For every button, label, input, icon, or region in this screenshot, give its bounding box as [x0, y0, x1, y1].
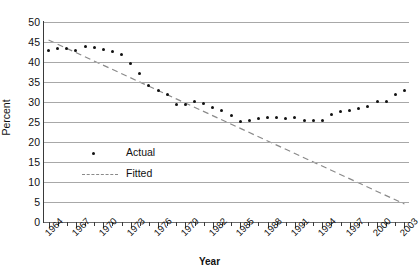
data-point — [394, 93, 397, 96]
data-point — [348, 109, 351, 112]
data-point — [321, 119, 324, 122]
data-point — [84, 45, 87, 48]
data-point — [230, 114, 233, 117]
x-axis-tick — [94, 222, 95, 226]
gridline — [44, 62, 409, 63]
x-axis-tick — [258, 222, 259, 226]
x-axis-tick — [395, 222, 396, 226]
y-axis-tick-label: 45 — [16, 37, 40, 47]
gridline — [44, 22, 409, 23]
y-axis-tick-labels: 50454035302520151050 — [12, 0, 40, 270]
x-axis-tick — [286, 222, 287, 226]
legend-label-fitted: Fitted — [126, 168, 152, 179]
gridline — [44, 202, 409, 203]
data-point — [312, 119, 315, 122]
data-point — [266, 116, 269, 119]
data-point — [248, 119, 251, 122]
gridline — [44, 82, 409, 83]
y-axis-tick-label: 40 — [16, 57, 40, 67]
legend-dashed-line-icon — [82, 174, 118, 175]
x-axis-tick — [176, 222, 177, 226]
chart-figure: 50454035302520151050 Percent Actual Fitt… — [0, 0, 419, 270]
legend-item-actual: Actual — [78, 143, 198, 164]
data-point — [257, 117, 260, 120]
data-point — [385, 100, 388, 103]
x-axis-tick — [204, 222, 205, 226]
y-axis-tick-label: 30 — [16, 97, 40, 107]
y-axis-tick-label: 20 — [16, 137, 40, 147]
data-point — [193, 100, 196, 103]
y-axis-tick-label: 10 — [16, 177, 40, 187]
data-point — [184, 103, 187, 106]
data-point — [376, 100, 379, 103]
x-axis-tick — [122, 222, 123, 226]
x-axis-tick — [313, 222, 314, 226]
y-axis-title: Percent — [1, 86, 12, 150]
y-axis-tick-label: 0 — [16, 217, 40, 227]
data-point — [303, 119, 306, 122]
x-axis-title: Year — [0, 256, 419, 267]
x-axis-tick — [149, 222, 150, 226]
x-axis-tick — [67, 222, 68, 226]
y-axis-tick-label: 25 — [16, 117, 40, 127]
legend-dot-icon — [92, 152, 95, 155]
x-axis-tick — [231, 222, 232, 226]
legend-label-actual: Actual — [126, 147, 155, 158]
data-point — [129, 62, 132, 65]
data-point — [102, 48, 105, 51]
data-point — [157, 89, 160, 92]
data-point — [403, 89, 406, 92]
gridline — [44, 102, 409, 103]
chart-legend: Actual Fitted — [78, 143, 198, 185]
y-axis-tick-label: 35 — [16, 77, 40, 87]
data-point — [175, 103, 178, 106]
y-axis-tick-label: 5 — [16, 197, 40, 207]
data-point — [239, 120, 242, 123]
gridline — [44, 122, 409, 123]
gridline — [44, 42, 409, 43]
x-axis-tick — [341, 222, 342, 226]
data-point — [330, 113, 333, 116]
data-point — [47, 49, 50, 52]
plot-area — [44, 22, 409, 222]
legend-item-fitted: Fitted — [78, 164, 198, 185]
x-axis-tick — [368, 222, 369, 226]
data-point — [93, 46, 96, 49]
y-axis-tick-label: 15 — [16, 157, 40, 167]
y-axis-tick-label: 50 — [16, 17, 40, 27]
